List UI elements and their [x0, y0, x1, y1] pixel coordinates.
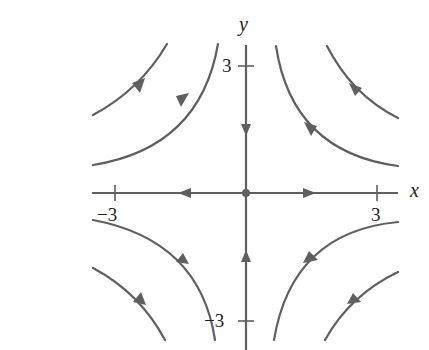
- arrow-pos-y-axis-down: [241, 124, 251, 136]
- y-tick-label-3: 3: [222, 56, 232, 75]
- trajectory-q4inner: [325, 272, 398, 340]
- arrow-pos-x-axis-right: [303, 188, 316, 198]
- trajectory-q2-inner: [93, 44, 167, 115]
- x-axis-label: x: [410, 180, 419, 200]
- arrow-q1-inner: [349, 83, 362, 96]
- x-tick-label-neg3: −3: [97, 205, 117, 224]
- arrow-neg-y-axis-up: [241, 250, 251, 262]
- arrow-q1-outer: [304, 122, 317, 136]
- arrow-q4-outer: [303, 251, 318, 263]
- y-tick-label-neg3: −3: [204, 311, 224, 330]
- arrow-neg-x-axis-left: [178, 188, 191, 198]
- equilibrium-point: [242, 189, 250, 197]
- y-axis-label: y: [239, 14, 248, 34]
- trajectory-q1-inner: [327, 46, 398, 118]
- phase-portrait: [0, 0, 429, 350]
- trajectory-q3-inner: [93, 268, 165, 340]
- x-tick-label-3: 3: [371, 205, 381, 224]
- arrow-q2-outer: [176, 93, 189, 107]
